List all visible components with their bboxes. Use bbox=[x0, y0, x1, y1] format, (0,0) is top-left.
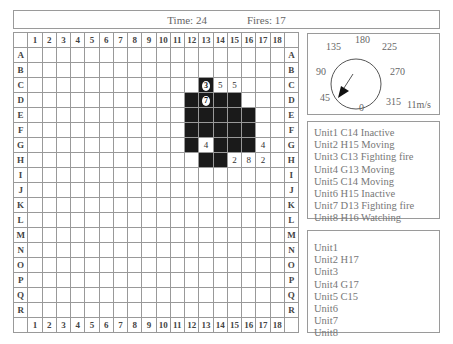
map-cell[interactable] bbox=[42, 78, 56, 93]
map-cell[interactable] bbox=[99, 288, 113, 303]
map-cell[interactable] bbox=[128, 168, 142, 183]
map-cell[interactable] bbox=[199, 288, 213, 303]
map-cell[interactable] bbox=[113, 288, 127, 303]
map-cell[interactable] bbox=[113, 123, 127, 138]
map-cell[interactable] bbox=[156, 63, 170, 78]
map-cell[interactable] bbox=[85, 228, 99, 243]
map-cell[interactable] bbox=[185, 213, 199, 228]
map-cell[interactable] bbox=[56, 198, 70, 213]
map-cell[interactable] bbox=[213, 198, 227, 213]
map-cell[interactable] bbox=[270, 48, 284, 63]
map-cell[interactable] bbox=[113, 93, 127, 108]
map-cell[interactable] bbox=[185, 243, 199, 258]
map-cell[interactable] bbox=[156, 228, 170, 243]
map-cell[interactable] bbox=[142, 138, 156, 153]
map-cell[interactable]: 4 bbox=[199, 138, 213, 153]
map-cell[interactable] bbox=[71, 228, 85, 243]
map-cell[interactable] bbox=[199, 198, 213, 213]
fire-cell[interactable] bbox=[227, 108, 241, 123]
fire-cell[interactable] bbox=[199, 123, 213, 138]
fire-cell[interactable] bbox=[213, 153, 227, 168]
fire-cell[interactable]: 7 bbox=[199, 93, 213, 108]
map-cell[interactable] bbox=[170, 228, 184, 243]
map-cell[interactable] bbox=[28, 273, 42, 288]
fire-cell[interactable] bbox=[213, 138, 227, 153]
map-cell[interactable] bbox=[256, 63, 270, 78]
map-cell[interactable] bbox=[185, 183, 199, 198]
map-cell[interactable] bbox=[42, 258, 56, 273]
map-cell[interactable] bbox=[170, 288, 184, 303]
map-cell[interactable] bbox=[85, 288, 99, 303]
map-cell[interactable] bbox=[128, 288, 142, 303]
map-cell[interactable] bbox=[128, 93, 142, 108]
map-cell[interactable] bbox=[270, 138, 284, 153]
map-cell[interactable] bbox=[185, 48, 199, 63]
map-cell[interactable] bbox=[142, 48, 156, 63]
map-cell[interactable] bbox=[142, 63, 156, 78]
map-cell[interactable] bbox=[56, 93, 70, 108]
map-cell[interactable] bbox=[213, 168, 227, 183]
map-cell[interactable] bbox=[113, 243, 127, 258]
map-cell[interactable] bbox=[113, 183, 127, 198]
map-cell[interactable] bbox=[185, 198, 199, 213]
map-cell[interactable] bbox=[227, 198, 241, 213]
map-cell[interactable] bbox=[85, 48, 99, 63]
map-cell[interactable] bbox=[128, 303, 142, 318]
map-cell[interactable] bbox=[199, 48, 213, 63]
fire-cell[interactable] bbox=[213, 108, 227, 123]
map-cell[interactable]: 2 bbox=[256, 153, 270, 168]
map-cell[interactable] bbox=[99, 78, 113, 93]
map-cell[interactable] bbox=[71, 78, 85, 93]
map-cell[interactable] bbox=[242, 198, 256, 213]
map-cell[interactable] bbox=[42, 168, 56, 183]
map-cell[interactable] bbox=[199, 63, 213, 78]
map-cell[interactable] bbox=[213, 303, 227, 318]
map-cell[interactable] bbox=[256, 243, 270, 258]
map-cell[interactable] bbox=[85, 243, 99, 258]
map-cell[interactable] bbox=[242, 78, 256, 93]
map-cell[interactable] bbox=[142, 123, 156, 138]
map-cell[interactable] bbox=[42, 213, 56, 228]
map-cell[interactable] bbox=[256, 108, 270, 123]
fire-cell[interactable] bbox=[199, 153, 213, 168]
map-cell[interactable] bbox=[170, 138, 184, 153]
map-cell[interactable] bbox=[156, 123, 170, 138]
map-cell[interactable] bbox=[185, 303, 199, 318]
map-cell[interactable] bbox=[156, 153, 170, 168]
map-cell[interactable] bbox=[28, 48, 42, 63]
map-cell[interactable] bbox=[128, 183, 142, 198]
map-cell[interactable] bbox=[99, 198, 113, 213]
map-cell[interactable] bbox=[242, 258, 256, 273]
map-cell[interactable] bbox=[85, 153, 99, 168]
map-cell[interactable] bbox=[270, 123, 284, 138]
map-cell[interactable] bbox=[142, 243, 156, 258]
fire-cell[interactable] bbox=[242, 108, 256, 123]
map-cell[interactable] bbox=[113, 138, 127, 153]
map-cell[interactable] bbox=[85, 63, 99, 78]
map-cell[interactable] bbox=[99, 243, 113, 258]
fire-cell[interactable] bbox=[227, 93, 241, 108]
map-cell[interactable] bbox=[256, 78, 270, 93]
map-cell[interactable] bbox=[71, 123, 85, 138]
map-cell[interactable] bbox=[170, 273, 184, 288]
map-cell[interactable] bbox=[142, 303, 156, 318]
map-cell[interactable] bbox=[156, 138, 170, 153]
map-cell[interactable] bbox=[71, 48, 85, 63]
map-cell[interactable] bbox=[113, 153, 127, 168]
map-cell[interactable] bbox=[128, 198, 142, 213]
map-cell[interactable] bbox=[56, 288, 70, 303]
map-cell[interactable] bbox=[156, 108, 170, 123]
map-cell[interactable] bbox=[185, 228, 199, 243]
map-cell[interactable] bbox=[56, 63, 70, 78]
map-cell[interactable] bbox=[142, 198, 156, 213]
map-cell[interactable] bbox=[113, 303, 127, 318]
map-cell[interactable] bbox=[213, 183, 227, 198]
map-cell[interactable] bbox=[156, 258, 170, 273]
fire-cell[interactable] bbox=[185, 108, 199, 123]
map-cell[interactable] bbox=[56, 183, 70, 198]
map-cell[interactable] bbox=[256, 273, 270, 288]
map-cell[interactable] bbox=[156, 198, 170, 213]
map-cell[interactable] bbox=[71, 153, 85, 168]
map-cell[interactable] bbox=[71, 108, 85, 123]
map-cell[interactable] bbox=[270, 63, 284, 78]
